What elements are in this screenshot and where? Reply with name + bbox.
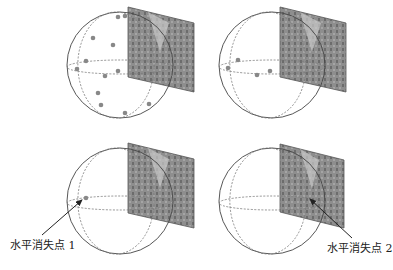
- sphere-point: [96, 91, 101, 96]
- sphere-point: [103, 74, 108, 79]
- sphere-point: [99, 103, 104, 108]
- vanishing-point-1-label: 水平消失点 1: [10, 236, 76, 252]
- sphere-point: [123, 14, 128, 19]
- sphere-point: [226, 66, 231, 71]
- sphere-point: [123, 111, 128, 116]
- vanishing-point-2-label: 水平消失点 2: [327, 239, 393, 255]
- panel-top-left: [67, 7, 194, 118]
- sphere-point: [116, 15, 121, 20]
- sphere-point: [116, 69, 121, 74]
- sphere-point: [84, 196, 89, 201]
- sphere-point: [236, 58, 241, 63]
- panel-top-right: [219, 7, 346, 118]
- panel-bottom-right: [219, 144, 352, 254]
- vanishing-point-diagram: [0, 0, 393, 270]
- sphere-point: [255, 73, 260, 78]
- sphere-point: [91, 36, 96, 41]
- sphere-point: [75, 67, 80, 72]
- sphere-point: [268, 69, 273, 74]
- sphere-point: [111, 43, 116, 48]
- sphere-point: [147, 102, 152, 107]
- sphere-point: [84, 59, 89, 64]
